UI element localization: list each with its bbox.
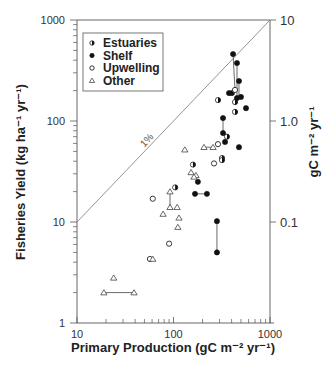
- reference-line-label: 1%: [138, 131, 156, 149]
- point-shelf: [234, 60, 239, 65]
- point-shelf: [222, 139, 227, 144]
- point-shelf: [230, 51, 235, 56]
- y2-tick-label: 10: [280, 13, 294, 28]
- point-other: [175, 224, 181, 229]
- point-shelf: [236, 145, 241, 150]
- point-shelf: [220, 130, 225, 135]
- point-estuaries: [215, 98, 220, 103]
- y2-axis-title: gC m⁻² yr⁻¹: [306, 106, 321, 177]
- legend-marker-estuaries: [90, 41, 94, 45]
- point-shelf: [195, 179, 200, 184]
- point-upwelling: [211, 161, 216, 166]
- point-shelf: [214, 219, 219, 224]
- point-other: [174, 204, 180, 209]
- legend: EstuariesShelfUpwellingOther: [83, 33, 163, 91]
- x-axis-title: Primary Production (gC m⁻² yr⁻¹): [71, 340, 275, 355]
- point-upwelling: [150, 196, 155, 201]
- point-other: [111, 275, 117, 280]
- legend-marker-shelf: [90, 53, 94, 57]
- point-shelf: [204, 191, 209, 196]
- point-other: [160, 211, 166, 216]
- point-other: [167, 204, 173, 209]
- point-estuaries: [190, 162, 195, 167]
- point-other: [167, 189, 173, 194]
- chart: 1% 10100100011010010000.11.010 Primary P…: [0, 0, 333, 371]
- point-estuaries: [232, 109, 237, 114]
- point-upwelling: [215, 142, 220, 147]
- point-shelf: [238, 94, 243, 99]
- point-estuaries: [219, 158, 224, 163]
- y-axis-title: Fisheries Yield (kg ha⁻¹ yr⁻¹): [13, 84, 28, 260]
- legend-label-other: Other: [103, 74, 135, 88]
- x-tick-label: 10: [71, 328, 83, 340]
- point-shelf: [243, 106, 248, 111]
- point-shelf: [220, 115, 225, 120]
- y-tick-label: 10: [53, 216, 65, 228]
- point-shelf: [192, 191, 197, 196]
- y-tick-label: 1000: [41, 14, 65, 26]
- point-estuaries: [173, 185, 178, 190]
- x-tick-label: 100: [164, 328, 182, 340]
- point-other: [188, 170, 194, 175]
- y-tick-label: 1: [59, 317, 65, 329]
- point-shelf: [236, 78, 241, 83]
- point-shelf: [214, 250, 219, 255]
- y2-tick-label: 1.0: [280, 114, 298, 129]
- point-other: [176, 215, 182, 220]
- point-upwelling: [232, 87, 237, 92]
- point-upwelling: [166, 241, 171, 246]
- point-other: [182, 147, 188, 152]
- legend-marker-upwelling: [90, 66, 94, 70]
- connector-line: [233, 54, 235, 90]
- x-tick-label: 1000: [258, 328, 282, 340]
- y2-tick-label: 0.1: [280, 215, 298, 230]
- y-tick-label: 100: [47, 115, 65, 127]
- axis-ticks: 10100100011010010000.11.010: [41, 13, 299, 340]
